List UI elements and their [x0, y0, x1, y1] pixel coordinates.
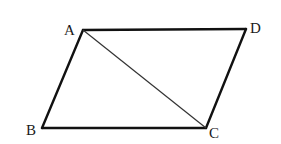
edge-BA	[42, 30, 83, 128]
diagonal-AC	[83, 30, 206, 128]
parallelogram-diagram: A D B C	[0, 0, 281, 144]
vertex-label-d: D	[250, 20, 261, 36]
vertex-label-b: B	[26, 122, 36, 138]
vertex-label-c: C	[209, 125, 219, 141]
vertex-label-a: A	[64, 22, 75, 38]
edge-DC	[206, 29, 246, 128]
edge-AD	[83, 29, 246, 30]
